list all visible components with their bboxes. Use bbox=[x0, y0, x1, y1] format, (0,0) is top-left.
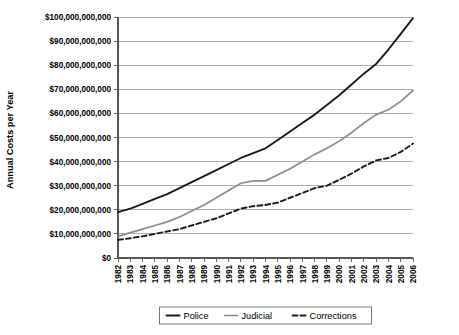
y-axis-tick-labels-group: $0$10,000,000,000$20,000,000,000$30,000,… bbox=[45, 13, 111, 263]
series-line-police bbox=[118, 18, 413, 212]
y-axis-title: Annual Costs per Year bbox=[5, 91, 15, 189]
chart-canvas: $0$10,000,000,000$20,000,000,000$30,000,… bbox=[0, 0, 459, 335]
x-axis-tick-label: 1986 bbox=[163, 265, 172, 284]
x-axis-tick-label: 1992 bbox=[237, 265, 246, 284]
x-axis-tick-label: 1997 bbox=[299, 265, 308, 284]
legend-label-police: Police bbox=[184, 311, 209, 321]
legend: PoliceJudicialCorrections bbox=[160, 307, 372, 324]
x-axis-tick-label: 1993 bbox=[249, 265, 258, 284]
x-axis-tick-label: 1984 bbox=[139, 265, 148, 284]
x-axis-tick-label: 1982 bbox=[114, 265, 123, 284]
y-axis-tick-label: $30,000,000,000 bbox=[50, 182, 112, 191]
y-axis-tick-label: $40,000,000,000 bbox=[50, 158, 112, 167]
x-axis-tick-label: 1999 bbox=[323, 265, 332, 284]
x-axis-tick-label: 1989 bbox=[200, 265, 209, 284]
x-axis-tick-label: 1985 bbox=[151, 265, 160, 284]
x-axis-tick-label: 2004 bbox=[385, 265, 394, 284]
y-axis-title-group: Annual Costs per Year bbox=[5, 91, 15, 189]
x-axis-tick-label: 1995 bbox=[274, 265, 283, 284]
y-axis-tick-label: $70,000,000,000 bbox=[50, 85, 112, 94]
legend-label-judicial: Judicial bbox=[242, 311, 273, 321]
y-axis-tick-label: $50,000,000,000 bbox=[50, 134, 112, 143]
x-axis-tick-label: 1988 bbox=[188, 265, 197, 284]
x-axis-tick-label: 1996 bbox=[286, 265, 295, 284]
x-axis-tick-label: 1991 bbox=[225, 265, 234, 284]
data-series-group bbox=[118, 18, 413, 240]
x-axis-tick-label: 2006 bbox=[409, 265, 418, 284]
x-axis-tick-label: 2003 bbox=[372, 265, 381, 284]
y-axis-tick-label: $20,000,000,000 bbox=[50, 206, 112, 215]
y-axis-ticks-group bbox=[114, 17, 118, 258]
legend-label-corrections: Corrections bbox=[310, 311, 357, 321]
x-axis-tick-label: 1983 bbox=[126, 265, 135, 284]
x-axis-tick-label: 2000 bbox=[335, 265, 344, 284]
x-axis-tick-label: 1994 bbox=[262, 265, 271, 284]
x-axis-tick-label: 2002 bbox=[360, 265, 369, 284]
line-chart-figure: $0$10,000,000,000$20,000,000,000$30,000,… bbox=[0, 0, 459, 335]
x-axis-tick-label: 2001 bbox=[348, 265, 357, 284]
y-axis-tick-label: $90,000,000,000 bbox=[50, 37, 112, 46]
gridlines-group bbox=[118, 17, 413, 234]
y-axis-tick-label: $100,000,000,000 bbox=[45, 13, 111, 22]
x-axis-tick-label: 2005 bbox=[397, 265, 406, 284]
series-line-corrections bbox=[118, 144, 413, 240]
y-axis-tick-label: $80,000,000,000 bbox=[50, 61, 112, 70]
x-axis-ticks-group bbox=[118, 258, 413, 262]
y-axis-tick-label: $0 bbox=[102, 254, 112, 263]
x-axis-tick-label: 1998 bbox=[311, 265, 320, 284]
x-axis-tick-label: 1990 bbox=[213, 265, 222, 284]
x-axis-tick-labels-group: 1982198319841985198619871988198919901991… bbox=[114, 265, 418, 284]
y-axis-tick-label: $60,000,000,000 bbox=[50, 109, 112, 118]
y-axis-tick-label: $10,000,000,000 bbox=[50, 230, 112, 239]
x-axis-tick-label: 1987 bbox=[176, 265, 185, 284]
